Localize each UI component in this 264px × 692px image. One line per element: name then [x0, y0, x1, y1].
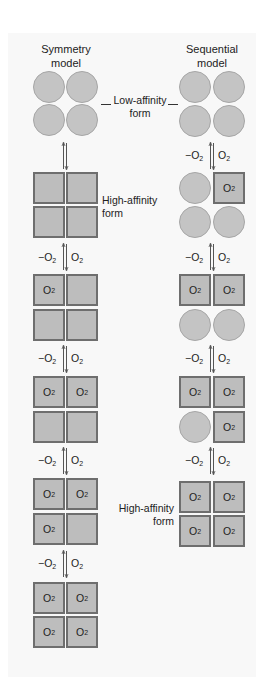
equilibrium-arrow-icon [61, 141, 69, 171]
subunit-square-bound: O2 [66, 478, 98, 510]
equilibrium-arrow-icon [208, 446, 216, 476]
bind-o2-label: O2 [71, 454, 83, 470]
bind-o2-label: O2 [71, 557, 83, 573]
subunit-square-bound: O2 [33, 582, 65, 614]
subunit-circle [33, 71, 65, 103]
bind-o2-label: O2 [218, 352, 230, 368]
subunit-square-bound: O2 [66, 616, 98, 648]
low-affinity-label: Low-affinity form [112, 94, 168, 120]
label-line: form [112, 107, 168, 120]
subunit-circle [213, 206, 245, 238]
equilibrium-arrow-icon [61, 446, 69, 476]
bind-o2-label: O2 [218, 149, 230, 165]
subunit-square-bound: O2 [33, 616, 65, 648]
equilibrium-arrow-icon [208, 344, 216, 374]
subunit-square [66, 172, 98, 204]
release-o2-label: −O2 [38, 454, 56, 470]
bind-o2-label: O2 [71, 352, 83, 368]
subunit-square [33, 309, 65, 341]
subunit-square [33, 206, 65, 238]
label-line: High-affinity [118, 502, 174, 515]
subunit-circle [179, 71, 211, 103]
release-o2-label: −O2 [38, 251, 56, 267]
equilibrium-arrow-icon [208, 141, 216, 171]
release-o2-label: −O2 [185, 251, 203, 267]
subunit-square [66, 274, 98, 306]
subunit-square-bound: O2 [33, 513, 65, 545]
subunit-square-bound: O2 [33, 274, 65, 306]
release-o2-label: −O2 [185, 149, 203, 165]
subunit-square-bound: O2 [213, 411, 245, 443]
subunit-square-bound: O2 [66, 582, 98, 614]
title-line: model [30, 56, 102, 70]
leader-line-left [101, 104, 111, 105]
subunit-circle [33, 104, 65, 136]
sequential-model-title: Sequential model [176, 42, 248, 70]
release-o2-label: −O2 [38, 557, 56, 573]
equilibrium-arrow-icon [61, 344, 69, 374]
subunit-circle [66, 104, 98, 136]
bind-o2-label: O2 [218, 251, 230, 267]
subunit-circle [66, 71, 98, 103]
label-line: Low-affinity [112, 94, 168, 107]
equilibrium-arrow-icon [61, 242, 69, 272]
subunit-square-bound: O2 [179, 376, 211, 408]
title-line: model [176, 56, 248, 70]
subunit-square [33, 411, 65, 443]
high-affinity-label-right: High-affinity form [118, 502, 174, 528]
subunit-square-bound: O2 [213, 515, 245, 547]
release-o2-label: −O2 [185, 454, 203, 470]
subunit-circle [213, 71, 245, 103]
title-line: Symmetry [30, 42, 102, 56]
label-line: High-affinity [102, 194, 157, 207]
subunit-square-bound: O2 [33, 478, 65, 510]
high-affinity-label-left: High-affinity form [102, 194, 157, 220]
subunit-square-bound: O2 [213, 481, 245, 513]
subunit-circle [213, 105, 245, 137]
release-o2-label: −O2 [185, 352, 203, 368]
subunit-square [66, 206, 98, 238]
subunit-square-bound: O2 [213, 376, 245, 408]
subunit-square [66, 411, 98, 443]
subunit-square-bound: O2 [213, 172, 245, 204]
subunit-square [66, 513, 98, 545]
subunit-circle [213, 309, 245, 341]
subunit-square [33, 172, 65, 204]
subunit-circle [179, 105, 211, 137]
release-o2-label: −O2 [38, 352, 56, 368]
leader-line-right [168, 104, 178, 105]
subunit-square-bound: O2 [213, 274, 245, 306]
bind-o2-label: O2 [71, 251, 83, 267]
label-line: form [102, 207, 157, 220]
equilibrium-arrow-icon [61, 549, 69, 579]
subunit-square-bound: O2 [179, 515, 211, 547]
subunit-square [66, 309, 98, 341]
subunit-circle [179, 309, 211, 341]
subunit-square-bound: O2 [33, 376, 65, 408]
label-line: form [118, 515, 174, 528]
symmetry-model-title: Symmetry model [30, 42, 102, 70]
equilibrium-arrow-icon [208, 242, 216, 272]
bind-o2-label: O2 [218, 454, 230, 470]
subunit-circle [179, 172, 211, 204]
subunit-square-bound: O2 [179, 274, 211, 306]
subunit-square-bound: O2 [179, 481, 211, 513]
subunit-circle [179, 206, 211, 238]
subunit-square-bound: O2 [66, 376, 98, 408]
subunit-circle [179, 411, 211, 443]
title-line: Sequential [176, 42, 248, 56]
